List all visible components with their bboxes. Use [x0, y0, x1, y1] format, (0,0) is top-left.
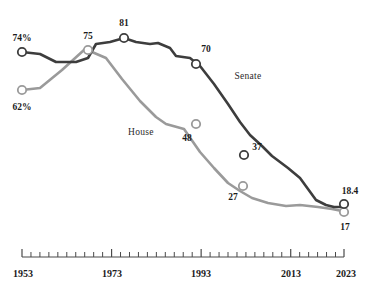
x-tick-label-1993: 1993 [191, 268, 211, 279]
label-senate-2009: 37 [252, 142, 262, 152]
house-marker-1993 [192, 120, 200, 128]
chart-container: 74% 62% 75 81 70 48 37 27 18.4 17 Senate… [0, 0, 370, 293]
senate-marker-1993 [192, 60, 200, 68]
x-tick-label-1973: 1973 [102, 268, 122, 279]
label-house-peak: 75 [83, 31, 93, 41]
senate-marker-1981 [120, 34, 128, 42]
senate-marker-1953 [18, 48, 26, 56]
label-senate-start: 74% [13, 33, 32, 43]
x-tick-label-2013: 2013 [281, 268, 301, 279]
series-label-house: House [128, 127, 154, 137]
senate-marker-2023 [340, 200, 348, 208]
label-house-2005: 27 [228, 192, 238, 202]
label-senate-peak: 81 [119, 18, 129, 28]
label-senate-1993: 70 [201, 44, 211, 54]
x-tick-label-2023: 2023 [336, 268, 356, 279]
label-senate-end: 18.4 [342, 186, 359, 196]
label-house-1993: 48 [182, 133, 192, 143]
house-marker-1973 [84, 46, 92, 54]
label-house-start: 62% [13, 102, 32, 112]
x-tick-label-1953: 1953 [13, 268, 33, 279]
chart-background [0, 0, 370, 293]
house-marker-2005 [239, 182, 247, 190]
senate-marker-2009 [240, 151, 248, 159]
series-label-senate: Senate [234, 71, 261, 81]
house-marker-1953 [18, 86, 26, 94]
label-house-end: 17 [340, 222, 350, 232]
